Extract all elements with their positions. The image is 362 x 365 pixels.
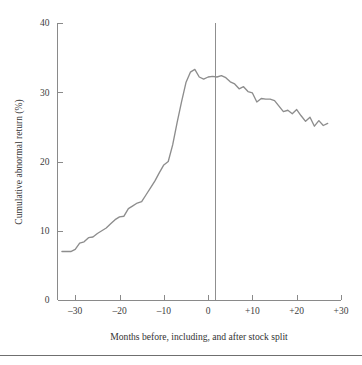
x-tick-label: 0 xyxy=(206,306,211,316)
cumulative-abnormal-return-chart: 010203040 –30–20–100+10+20+30 Cumulative… xyxy=(0,0,362,365)
x-tick-label: –10 xyxy=(156,306,172,316)
cumulative-return-line xyxy=(62,69,328,251)
figure-container: 010203040 –30–20–100+10+20+30 Cumulative… xyxy=(0,0,362,365)
y-axis-title: Cumulative abnormal return (%) xyxy=(13,99,25,224)
x-tick-label: +10 xyxy=(245,306,260,316)
y-tick-label: 30 xyxy=(40,88,50,98)
y-tick-label: 10 xyxy=(40,226,50,236)
y-tick-label: 40 xyxy=(40,18,50,28)
bottom-divider xyxy=(0,355,362,356)
x-tick-label: +30 xyxy=(334,306,349,316)
x-tick-group: –30–20–100+10+20+30 xyxy=(67,295,349,316)
x-tick-label: +20 xyxy=(289,306,304,316)
y-tick-label: 0 xyxy=(45,295,50,305)
y-axis-group: 010203040 xyxy=(40,18,63,305)
x-tick-label: –20 xyxy=(111,306,127,316)
x-axis-group: –30–20–100+10+20+30 xyxy=(58,295,349,316)
y-tick-group: 010203040 xyxy=(40,18,63,305)
x-tick-label: –30 xyxy=(67,306,83,316)
y-tick-label: 20 xyxy=(40,157,50,167)
x-axis-title: Months before, including, and after stoc… xyxy=(110,331,288,342)
